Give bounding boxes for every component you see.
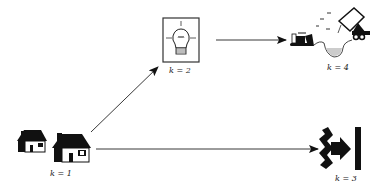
lightbulb-icon (163, 18, 199, 62)
edge-k1-k2 (91, 67, 158, 132)
node-label-k1: k = 1 (50, 169, 72, 178)
diagram-canvas (0, 0, 385, 193)
bulldozer-truck-pit-icon (290, 8, 370, 57)
node-label-k4: k = 4 (327, 63, 349, 72)
barrier-arrow-icon (319, 127, 361, 170)
node-label-k2: k = 2 (169, 66, 191, 75)
houses-icon (17, 130, 91, 162)
node-label-k3: k = 3 (335, 174, 357, 183)
